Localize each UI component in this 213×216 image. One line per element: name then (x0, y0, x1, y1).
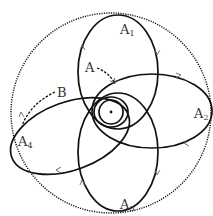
arrow-icon (19, 112, 24, 117)
label-a1: A1 (119, 22, 134, 38)
transfer-path-a (97, 68, 114, 82)
center-dot (110, 111, 113, 114)
label-b: B (57, 85, 67, 100)
arrow-icon (56, 167, 61, 173)
ellipse-a3 (78, 93, 158, 211)
label-a: A (84, 60, 95, 75)
label-a2: A2 (193, 106, 208, 122)
label-a4: A4 (17, 134, 32, 150)
label-a3: A3 (119, 197, 134, 213)
orbit-diagram: A1 A2 A3 A4 A B (0, 0, 213, 216)
